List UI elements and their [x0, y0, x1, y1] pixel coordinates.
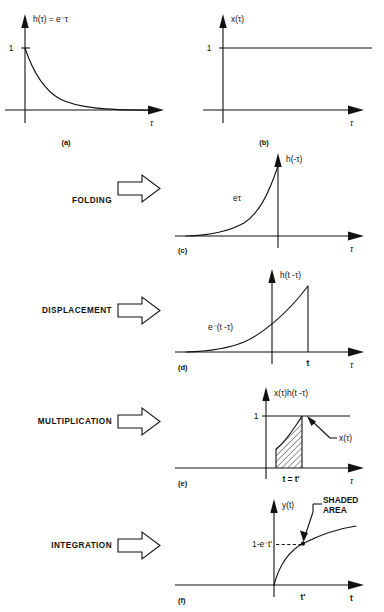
- panel-e: x(τ) x(τ)h(t -τ) 1 t = t' τ (e): [175, 387, 364, 488]
- panel-e-curve-label: x(τ)h(t -τ): [274, 388, 308, 398]
- panel-e-x-axis-label: τ: [350, 476, 354, 486]
- convolution-figure: h(τ) = e⁻τ 1 τ (a) x(τ) 1 τ (b): [0, 0, 384, 612]
- panel-c-tag: (c): [178, 246, 188, 255]
- panel-d-x-axis-label: τ: [350, 360, 354, 370]
- panel-f-value-marker: [301, 542, 305, 546]
- row-folding: h(-τ) eτ τ (c): [0, 150, 384, 260]
- multiplication-block-arrow-icon: [118, 408, 160, 435]
- row-multiplication: x(τ) x(τ)h(t -τ) 1 t = t' τ (e): [0, 375, 384, 490]
- panel-f-x-axis-arrowhead: [348, 581, 364, 590]
- panel-a-y-axis-arrowhead: [21, 14, 28, 28]
- panel-a-curve: [25, 48, 150, 110]
- row-integration: SHADED AREA y(t) 1-e⁻t' t' t (f): [0, 490, 384, 612]
- panel-f-callout-label-line2: AREA: [323, 505, 347, 515]
- folding-block-arrow-icon: [118, 175, 160, 202]
- panel-b-curve-label: x(τ): [231, 14, 244, 24]
- panel-f: SHADED AREA y(t) 1-e⁻t' t' t (f): [175, 495, 364, 605]
- panel-e-callout-leader: [312, 421, 330, 438]
- panel-d-x-axis-arrowhead: [348, 348, 364, 357]
- panel-f-y-tick-label: 1-e⁻t': [252, 539, 272, 549]
- panel-a-y-tick-label: 1: [9, 43, 14, 53]
- integration-block-arrow-icon: [118, 532, 160, 559]
- panel-d: h(t -τ) e⁻(t -τ) t τ (d): [175, 269, 364, 372]
- panel-e-y-axis-arrowhead: [262, 387, 269, 401]
- panel-f-y-axis-arrowhead: [270, 499, 277, 513]
- panel-d-y-axis-arrowhead: [268, 269, 275, 283]
- operation-label-multiplication: MULTIPLICATION: [0, 417, 112, 426]
- panel-a-tag: (a): [61, 138, 71, 147]
- panel-d-tag: (d): [178, 363, 188, 372]
- panel-f-tag: (f): [178, 596, 186, 605]
- panel-e-y-tick-label: 1: [254, 411, 259, 421]
- panel-c-curve-label: h(-τ): [286, 154, 303, 164]
- panel-b-tag: (b): [259, 138, 269, 147]
- panel-e-callout-arrowhead: [307, 416, 316, 426]
- panel-c-x-axis-label: τ: [350, 244, 354, 254]
- row-displacement: h(t -τ) e⁻(t -τ) t τ (d): [0, 260, 384, 375]
- panel-f-curve: [274, 526, 356, 585]
- panel-d-curve: [186, 286, 308, 352]
- panel-b-x-axis-label: τ: [350, 118, 354, 128]
- panel-e-x-axis-arrowhead: [348, 464, 364, 473]
- row-step-functions: h(τ) = e⁻τ 1 τ (a) x(τ) 1 τ (b): [0, 0, 384, 150]
- displacement-block-arrow-icon: [118, 297, 160, 324]
- panel-f-curve-label: y(t): [282, 500, 294, 510]
- panel-c-y-axis-arrowhead: [274, 153, 281, 167]
- panel-b-y-tick-label: 1: [207, 43, 212, 53]
- panel-c-x-axis-arrowhead: [348, 232, 364, 241]
- panel-f-callout-leader: [305, 512, 313, 536]
- operation-label-integration: INTEGRATION: [0, 541, 112, 550]
- panel-f-x-tick-label: t': [301, 592, 306, 602]
- panel-c: h(-τ) eτ τ (c): [175, 153, 364, 255]
- panel-b-y-axis-arrowhead: [219, 14, 226, 28]
- panel-e-shaded-area: [276, 416, 302, 468]
- panel-e-callout-label: x(τ): [339, 433, 352, 443]
- panel-e-x-tick-label: t = t': [282, 474, 299, 484]
- panel-a-x-axis-label: τ: [150, 118, 154, 128]
- panel-a-curve-label: h(τ) = e⁻τ: [33, 14, 69, 24]
- panel-d-inner-label: e⁻(t -τ): [208, 322, 233, 332]
- panel-d-curve-label: h(t -τ): [280, 270, 301, 280]
- panel-e-tag: (e): [178, 479, 188, 488]
- panel-b-x-axis-arrowhead: [348, 106, 364, 115]
- panel-f-callout-label-line1: SHADED: [323, 495, 358, 505]
- panel-f-x-axis-label: t: [350, 593, 353, 603]
- panel-a: h(τ) = e⁻τ 1 τ (a): [5, 14, 164, 147]
- panel-c-curve: [186, 166, 278, 236]
- operation-label-displacement: DISPLACEMENT: [0, 306, 112, 315]
- panel-c-inner-label: eτ: [233, 193, 242, 203]
- operation-label-folding: FOLDING: [0, 196, 112, 205]
- panel-d-x-tick-label: t: [307, 358, 310, 368]
- panel-b: x(τ) 1 τ (b): [203, 14, 372, 147]
